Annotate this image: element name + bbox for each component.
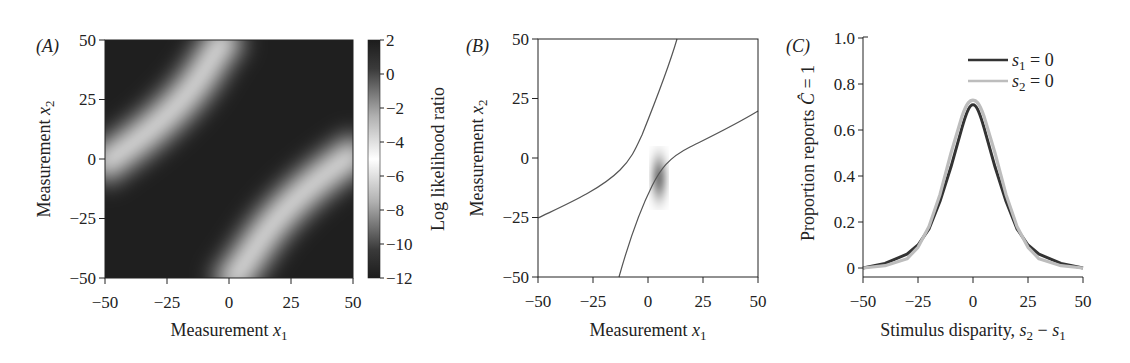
panel-b-ytick: −50 <box>502 268 529 287</box>
panel-c-ytick: 0.2 <box>834 213 855 232</box>
panel-b-xlabel: Measurement x1 <box>590 320 707 343</box>
colorbar-tick: 0 <box>386 65 395 84</box>
colorbar-tick: 2 <box>386 31 395 50</box>
panel-c-xtick: 25 <box>1020 292 1037 311</box>
panel-a-xtick: 50 <box>345 293 362 312</box>
colorbar-label: Log likelihood ratio <box>428 87 448 231</box>
panel-c-ytick: 0.4 <box>834 167 856 186</box>
panel-b-label: (B) <box>466 36 489 57</box>
figure: (A) 50 25 0 −25 −50 <box>0 0 1130 363</box>
panel-c-label: (C) <box>786 36 810 57</box>
panel-a: (A) 50 25 0 −25 −50 <box>34 30 448 343</box>
panel-a-ytick: −50 <box>69 269 96 288</box>
panel-c-yticks <box>858 38 863 268</box>
panel-a-xlabel: Measurement x1 <box>171 320 288 343</box>
legend-label-s2: s2 = 0 <box>1012 71 1054 94</box>
panel-c-ytick: 0.6 <box>834 121 855 140</box>
panel-c-xtick: −25 <box>905 292 932 311</box>
panel-a-ytick: 25 <box>79 90 96 109</box>
panel-b-ytick: 0 <box>521 149 530 168</box>
panel-b-ytick: 50 <box>512 30 529 49</box>
panel-b-ylabel: Measurement x2 <box>467 100 490 217</box>
panel-a-colorbar: 2 0 −2 −4 −6 −8 −10 −12 Log likelihood r… <box>368 31 448 288</box>
panel-a-y-axis <box>99 40 105 278</box>
colorbar-tick: −12 <box>386 269 413 288</box>
panel-b-xtick: −25 <box>580 292 607 311</box>
gaussian-blob <box>654 162 664 194</box>
panel-b-ytick: 25 <box>512 89 529 108</box>
panel-a-ylabel: Measurement x2 <box>34 101 57 218</box>
panel-b: (B) 50 25 0 −25 −50 −50 −25 0 25 50 <box>466 30 767 343</box>
panel-b-xtick: 50 <box>750 292 767 311</box>
panel-b-x-axis <box>538 277 758 283</box>
boundary-curve-upper <box>538 39 677 218</box>
panel-c-xtick: 0 <box>969 292 978 311</box>
panel-a-x-axis <box>105 278 353 284</box>
panel-a-xtick: −25 <box>154 293 181 312</box>
panel-c-xtick: 50 <box>1075 292 1092 311</box>
panel-c-xtick: −50 <box>850 292 877 311</box>
panel-a-ytick: 0 <box>88 150 97 169</box>
colorbar-tick: −10 <box>386 235 413 254</box>
curve-s1-zero <box>863 105 1083 268</box>
panel-a-xtick: 25 <box>283 293 300 312</box>
panel-c-xticks <box>863 277 1083 283</box>
panel-a-ytick: 50 <box>79 31 96 50</box>
panel-c-ytick: 0 <box>847 259 856 278</box>
panel-b-ytick: −25 <box>502 208 529 227</box>
panel-b-xtick: −50 <box>525 292 552 311</box>
panel-c-ylabel: Proportion reports Ĉ = 1 <box>797 65 818 241</box>
panel-b-xtick: 0 <box>644 292 653 311</box>
panel-c-legend: s1 = 0 s2 = 0 <box>968 50 1054 94</box>
legend-label-s1: s1 = 0 <box>1012 50 1054 73</box>
panel-c-xlabel: Stimulus disparity, s2 − s1 <box>880 320 1066 343</box>
panel-b-frame <box>538 39 758 277</box>
panel-c-ytick: 1.0 <box>834 29 855 48</box>
colorbar-tick: −4 <box>386 133 405 152</box>
panel-a-heatmap <box>95 30 363 290</box>
panel-a-xtick: 0 <box>225 293 234 312</box>
boundary-curve-lower <box>619 111 758 277</box>
curve-s2-zero <box>863 100 1083 268</box>
panel-a-label: (A) <box>36 36 59 57</box>
panel-b-xtick: 25 <box>695 292 712 311</box>
colorbar-tick: −6 <box>386 167 404 186</box>
panel-a-xtick: −50 <box>92 293 119 312</box>
colorbar-tick: −8 <box>386 201 404 220</box>
panel-c: (C) 1.0 0.8 0.6 0.4 0.2 0 −50 −2 <box>786 29 1092 343</box>
panel-b-y-axis <box>532 39 538 277</box>
colorbar-tick: −2 <box>386 99 404 118</box>
panel-a-ytick: −25 <box>69 209 96 228</box>
panel-c-ytick: 0.8 <box>834 75 855 94</box>
